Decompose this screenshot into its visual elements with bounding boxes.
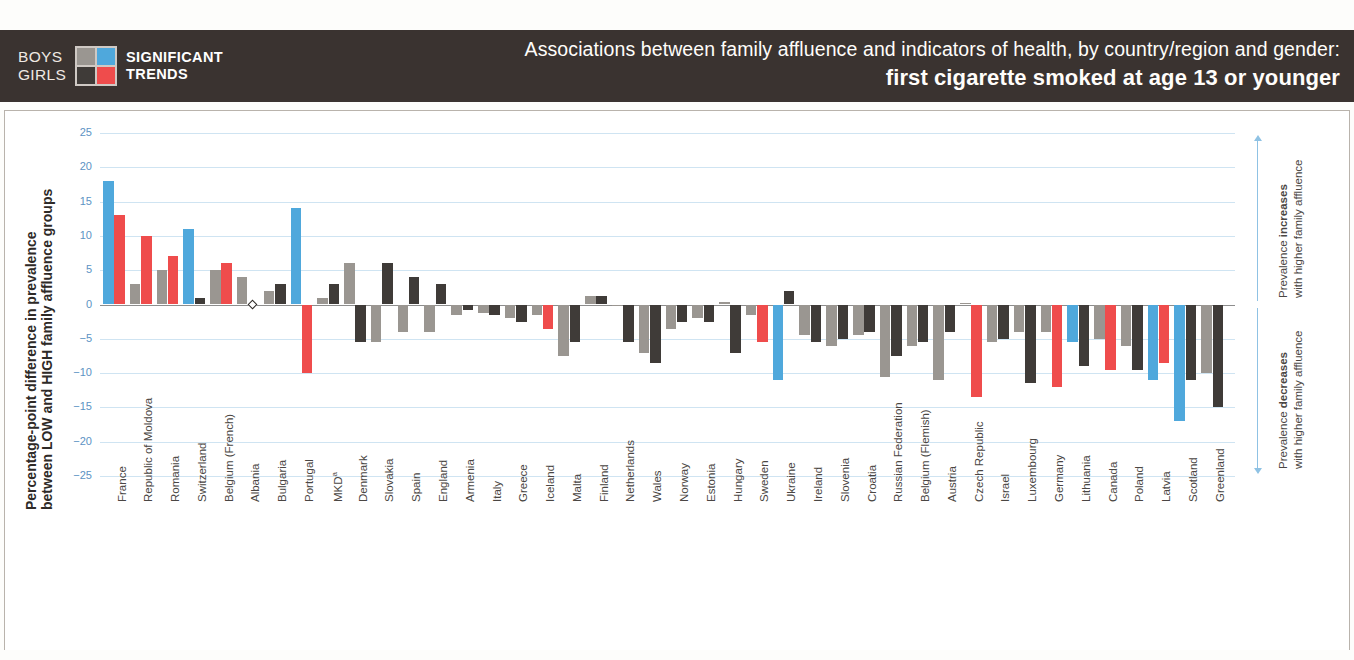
bar-girls [1025, 305, 1036, 384]
bar-girls [730, 305, 741, 353]
x-axis-category-label: Republic of Moldova [142, 398, 154, 502]
legend-swatch-girls-nonsignificant [77, 67, 95, 84]
gridline [100, 373, 1235, 374]
x-axis-category-label: Belgium (French) [223, 414, 235, 502]
x-axis-category-label: Portugal [303, 459, 315, 502]
legend-gender-labels: BOYS GIRLS [18, 48, 66, 84]
x-axis-category-label: Estonia [705, 464, 717, 502]
bar-boys [451, 305, 462, 315]
y-axis-tick: 20 [5, 160, 92, 172]
chart-title-line2: first cigarette smoked at age 13 or youn… [340, 64, 1340, 92]
annotation-axis-line [1257, 140, 1258, 301]
bar-boys [1121, 305, 1132, 346]
bar-girls [489, 305, 500, 315]
x-axis-category-label: Austria [946, 466, 958, 502]
bar-girls [596, 296, 607, 305]
bar-girls [838, 305, 849, 339]
x-axis-category-label: Romania [169, 456, 181, 502]
bar-girls [329, 284, 340, 305]
bar-boys [639, 305, 650, 353]
bar-girls [1186, 305, 1197, 380]
bar-girls [945, 305, 956, 332]
bar-girls [382, 263, 393, 304]
bar-girls [1213, 305, 1224, 408]
x-axis-category-label: MKDa [330, 472, 344, 502]
x-axis-category-label: Greenland [1214, 448, 1226, 502]
plot-frame: 2520151050−5−10−15−20−25FranceRepublic o… [4, 110, 1350, 650]
legend-trends-word: TRENDS [126, 66, 223, 83]
y-axis-caption-line1: Percentage-point difference in prevalenc… [23, 231, 39, 510]
x-axis-category-label: Armenia [464, 459, 476, 502]
annotation-arrow-head [1254, 468, 1262, 474]
x-axis-category-label: Ukraine [785, 462, 797, 502]
header-bar: BOYS GIRLS SIGNIFICANT TRENDS Associatio… [0, 30, 1354, 102]
bar-girls [1132, 305, 1143, 370]
bar-girls [195, 298, 206, 305]
legend-swatch-grid [75, 46, 117, 86]
bar-boys [1148, 305, 1159, 380]
gridline [100, 339, 1235, 340]
bar-boys [532, 305, 543, 315]
bar-boys [210, 270, 221, 304]
bar-girls [168, 256, 179, 304]
x-axis-category-label: England [437, 460, 449, 502]
x-axis-category-label: Luxembourg [1026, 438, 1038, 502]
bar-girls [784, 291, 795, 305]
x-axis-category-label: Norway [678, 463, 690, 502]
bar-boys [960, 303, 971, 304]
bar-boys [317, 298, 328, 305]
x-axis-category-label: Poland [1133, 466, 1145, 502]
bar-girls [864, 305, 875, 332]
y-axis-caption: Percentage-point difference in prevalenc… [22, 150, 46, 510]
bar-boys [103, 181, 114, 304]
bar-girls [704, 305, 715, 322]
x-axis-category-label: Latvia [1160, 471, 1172, 502]
bar-boys [719, 302, 730, 304]
bar-boys [183, 229, 194, 304]
x-axis-category-label: Switzerland [196, 443, 208, 502]
bar-boys [237, 277, 248, 304]
bar-boys [907, 305, 918, 346]
bar-boys [773, 305, 784, 380]
x-axis-category-label: Italy [491, 481, 503, 502]
bar-girls [1052, 305, 1063, 387]
x-axis-category-label: Russian Federation [892, 402, 904, 502]
x-axis-category-label: Hungary [732, 459, 744, 502]
x-axis-category-label: Czech Republic [973, 421, 985, 502]
annotation-decrease-sub: with higher family affluence [1292, 331, 1304, 470]
bar-boys [692, 305, 703, 319]
x-axis-category-label: Israel [999, 474, 1011, 502]
chart-title: Associations between family affluence an… [340, 34, 1340, 92]
gridline [100, 167, 1235, 168]
zero-marker-diamond [248, 299, 258, 309]
x-axis-category-label: Canada [1107, 462, 1119, 502]
x-axis-category-label: Slovakia [383, 459, 395, 502]
bar-girls [141, 236, 152, 305]
bar-boys [1094, 305, 1105, 339]
legend: BOYS GIRLS SIGNIFICANT TRENDS [18, 46, 223, 86]
bar-boys [826, 305, 837, 346]
bar-girls [355, 305, 366, 343]
x-axis-category-label: Lithuania [1080, 455, 1092, 502]
bar-girls [811, 305, 822, 343]
gridline [100, 407, 1235, 408]
x-axis-category-label: Slovenia [839, 458, 851, 502]
gridline [100, 442, 1235, 443]
bar-girls [516, 305, 527, 322]
x-axis-category-label: Croatia [866, 465, 878, 502]
bar-boys [344, 263, 355, 304]
bar-boys [157, 270, 168, 304]
x-axis-category-label: Ireland [812, 467, 824, 502]
bar-boys [371, 305, 382, 343]
legend-swatch-boys-nonsignificant [77, 48, 95, 65]
bar-boys [666, 305, 677, 329]
bar-boys [264, 291, 275, 305]
bar-boys [1041, 305, 1052, 332]
bar-girls [757, 305, 768, 343]
y-axis-tick: 25 [5, 126, 92, 138]
bar-boys [933, 305, 944, 380]
bar-boys [612, 305, 623, 306]
bar-girls [677, 305, 688, 322]
y-axis-caption-line2: between LOW and HIGH family affluence gr… [39, 189, 55, 510]
bar-boys [1067, 305, 1078, 343]
